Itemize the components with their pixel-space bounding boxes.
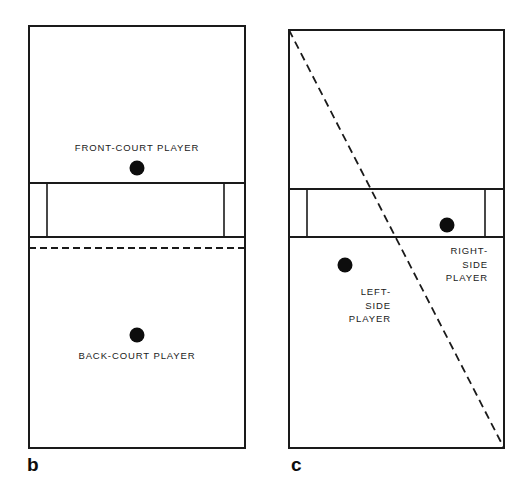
left-side-player-label: LEFT- SIDE PLAYER — [349, 285, 391, 326]
figure-root: FRONT-COURT PLAYER BACK-COURT PLAYER b R… — [0, 0, 528, 492]
right-side-player-marker — [440, 218, 455, 233]
front-court-player-label: FRONT-COURT PLAYER — [75, 142, 199, 154]
left-side-player-label-line-2: SIDE — [349, 299, 391, 313]
panel-letter-c: c — [291, 455, 302, 475]
back-court-player-label: BACK-COURT PLAYER — [78, 350, 195, 362]
right-side-player-label-line-1: RIGHT- — [446, 244, 488, 258]
court-diagram-c — [264, 0, 528, 492]
panel-c: RIGHT- SIDE PLAYER LEFT- SIDE PLAYER c — [264, 0, 528, 492]
right-side-player-label-line-3: PLAYER — [446, 271, 488, 285]
front-court-player-marker — [130, 161, 145, 176]
right-side-player-label: RIGHT- SIDE PLAYER — [446, 244, 488, 285]
left-side-player-marker — [338, 258, 353, 273]
panel-b: FRONT-COURT PLAYER BACK-COURT PLAYER b — [0, 0, 264, 492]
left-side-player-label-line-1: LEFT- — [349, 285, 391, 299]
left-side-player-label-line-3: PLAYER — [349, 312, 391, 326]
right-side-player-label-line-2: SIDE — [446, 258, 488, 272]
panel-letter-b: b — [27, 455, 39, 475]
court-diagram-b — [0, 0, 264, 492]
back-court-player-marker — [130, 328, 145, 343]
